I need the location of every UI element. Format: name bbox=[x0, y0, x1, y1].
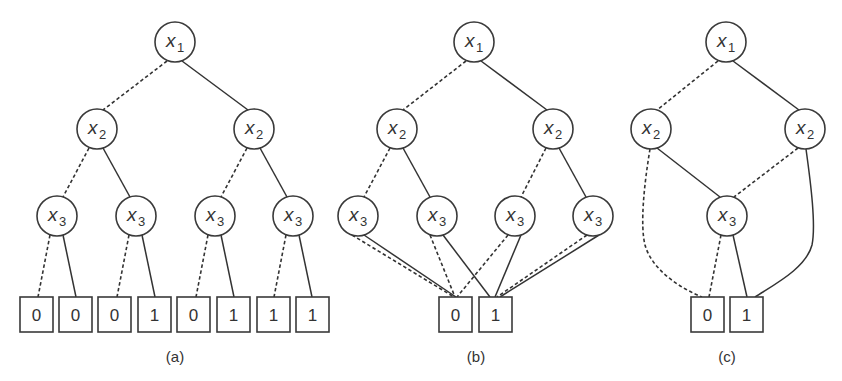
node-subscript-label: 2 bbox=[807, 127, 814, 142]
decision-node-x3: x3 bbox=[573, 196, 613, 236]
high-edge bbox=[403, 148, 430, 197]
panel-caption: (c) bbox=[718, 348, 736, 365]
terminal-node-0: 0 bbox=[691, 297, 724, 332]
node-subscript-label: 2 bbox=[653, 127, 660, 142]
terminal-value: 1 bbox=[742, 306, 751, 325]
node-variable-label: x bbox=[244, 117, 256, 138]
high-edge bbox=[733, 61, 799, 110]
high-edge bbox=[221, 235, 234, 297]
high-edge bbox=[299, 235, 312, 297]
low-edge bbox=[63, 148, 89, 197]
decision-node-x3: x3 bbox=[495, 196, 535, 236]
node-subscript-label: 2 bbox=[399, 127, 406, 142]
node-subscript-label: 1 bbox=[476, 40, 483, 55]
node-subscript-label: 3 bbox=[360, 214, 367, 229]
decision-node-x1: x1 bbox=[155, 22, 195, 62]
terminal-value: 0 bbox=[703, 306, 712, 325]
edges bbox=[352, 61, 599, 297]
high-edge bbox=[733, 235, 747, 297]
decision-node-x2: x2 bbox=[377, 109, 417, 149]
bdd-figure: x1x2x2x3x3x3x300010111(a)x1x2x2x3x3x3x30… bbox=[0, 0, 842, 381]
panel-caption: (b) bbox=[467, 348, 485, 365]
decision-node-x3: x3 bbox=[116, 196, 156, 236]
low-edge bbox=[274, 235, 286, 297]
node-subscript-label: 3 bbox=[439, 214, 446, 229]
low-edge bbox=[352, 235, 454, 297]
terminal-node-1: 1 bbox=[138, 297, 171, 332]
node-subscript-label: 3 bbox=[295, 214, 302, 229]
low-edge bbox=[196, 235, 208, 297]
decision-node-x3: x3 bbox=[338, 196, 378, 236]
terminal-value: 0 bbox=[110, 306, 119, 325]
terminal-value: 1 bbox=[491, 306, 500, 325]
high-edge bbox=[481, 61, 547, 110]
node-subscript-label: 1 bbox=[177, 40, 184, 55]
node-subscript-label: 2 bbox=[555, 127, 562, 142]
terminal-node-0: 0 bbox=[59, 297, 92, 332]
terminal-node-0: 0 bbox=[20, 297, 53, 332]
high-edge bbox=[63, 235, 76, 297]
node-variable-label: x bbox=[505, 204, 517, 225]
terminal-node-0: 0 bbox=[177, 297, 210, 332]
low-edge bbox=[643, 149, 702, 297]
node-variable-label: x bbox=[641, 117, 653, 138]
low-edge bbox=[38, 235, 50, 297]
node-variable-label: x bbox=[87, 117, 99, 138]
high-edge bbox=[500, 235, 599, 297]
node-variable-label: x bbox=[165, 30, 177, 51]
decision-node-x3: x3 bbox=[37, 196, 77, 236]
edges bbox=[643, 61, 814, 297]
low-edge bbox=[521, 148, 546, 197]
node-subscript-label: 1 bbox=[728, 40, 735, 55]
node-subscript-label: 3 bbox=[59, 214, 66, 229]
decision-node-x1: x1 bbox=[706, 22, 746, 62]
panel-a: x1x2x2x3x3x3x300010111(a) bbox=[20, 22, 329, 365]
panel-caption: (a) bbox=[166, 348, 184, 365]
node-subscript-label: 2 bbox=[256, 127, 263, 142]
decision-node-x2: x2 bbox=[631, 109, 671, 149]
terminal-node-0: 0 bbox=[98, 297, 131, 332]
terminal-node-1: 1 bbox=[479, 297, 512, 332]
decision-node-x3: x3 bbox=[273, 196, 313, 236]
high-edge bbox=[755, 149, 813, 297]
terminal-value: 1 bbox=[269, 306, 278, 325]
low-edge bbox=[103, 61, 167, 110]
node-subscript-label: 3 bbox=[595, 214, 602, 229]
node-subscript-label: 3 bbox=[729, 214, 736, 229]
decision-node-x2: x2 bbox=[533, 109, 573, 149]
terminal-node-1: 1 bbox=[217, 297, 250, 332]
low-edge bbox=[221, 148, 247, 197]
node-variable-label: x bbox=[795, 117, 807, 138]
node-variable-label: x bbox=[427, 204, 439, 225]
high-edge bbox=[182, 61, 248, 110]
terminal-value: 0 bbox=[32, 306, 41, 325]
node-subscript-label: 3 bbox=[517, 214, 524, 229]
node-variable-label: x bbox=[47, 204, 59, 225]
decision-node-x1: x1 bbox=[454, 22, 494, 62]
high-edge bbox=[142, 235, 155, 297]
node-variable-label: x bbox=[283, 204, 295, 225]
terminal-node-1: 1 bbox=[257, 297, 290, 332]
node-variable-label: x bbox=[348, 204, 360, 225]
node-variable-label: x bbox=[716, 30, 728, 51]
node-variable-label: x bbox=[543, 117, 555, 138]
node-subscript-label: 3 bbox=[138, 214, 145, 229]
node-subscript-label: 3 bbox=[217, 214, 224, 229]
decision-node-x3: x3 bbox=[417, 196, 457, 236]
low-edge bbox=[709, 235, 721, 297]
low-edge bbox=[497, 235, 587, 297]
high-edge bbox=[443, 235, 490, 297]
low-edge bbox=[364, 148, 390, 197]
decision-node-x2: x2 bbox=[234, 109, 274, 149]
terminal-node-0: 0 bbox=[439, 297, 472, 332]
edges bbox=[38, 61, 312, 297]
terminal-value: 0 bbox=[451, 306, 460, 325]
terminal-value: 1 bbox=[229, 306, 238, 325]
terminal-node-1: 1 bbox=[730, 297, 763, 332]
high-edge bbox=[559, 148, 586, 197]
terminal-value: 1 bbox=[150, 306, 159, 325]
low-edge bbox=[657, 61, 718, 110]
node-variable-label: x bbox=[717, 204, 729, 225]
node-subscript-label: 2 bbox=[99, 127, 106, 142]
decision-node-x3: x3 bbox=[195, 196, 235, 236]
